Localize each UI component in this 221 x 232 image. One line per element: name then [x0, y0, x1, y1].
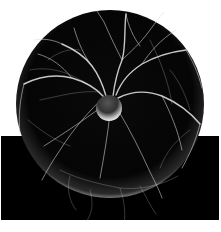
plasma-ball-photo	[0, 0, 221, 232]
central-electrode	[96, 95, 122, 121]
plasma-ball-graphic	[0, 0, 221, 232]
